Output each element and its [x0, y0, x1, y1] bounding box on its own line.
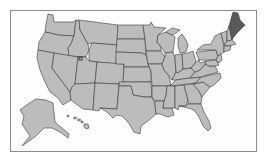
state-hawaii[interactable]	[67, 115, 89, 129]
state-kansas[interactable]	[123, 67, 151, 82]
state-arizona[interactable]	[70, 83, 95, 110]
state-wyoming[interactable]	[89, 43, 117, 64]
state-alaska[interactable]	[20, 99, 69, 146]
state-new-mexico[interactable]	[93, 83, 119, 111]
us-map	[0, 0, 270, 162]
state-pennsylvania[interactable]	[196, 50, 218, 60]
state-maine[interactable]	[229, 12, 245, 40]
state-north-dakota[interactable]	[117, 25, 145, 39]
state-connecticut[interactable]	[224, 46, 231, 52]
state-iowa[interactable]	[146, 51, 165, 64]
state-colorado[interactable]	[95, 62, 124, 84]
states-layer	[20, 12, 245, 146]
state-florida[interactable]	[179, 104, 211, 131]
